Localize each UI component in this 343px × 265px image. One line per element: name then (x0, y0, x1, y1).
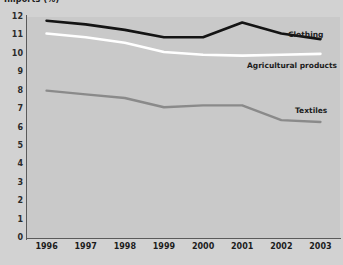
x-axis-tick-2002: 2002 (270, 243, 292, 251)
x-axis-tick-labels: 19961997199819992000200120022003 (0, 243, 343, 261)
x-axis-tick-1999: 1999 (153, 243, 175, 251)
x-axis-tick-1997: 1997 (75, 243, 97, 251)
series-line-textiles (47, 91, 321, 122)
series-label-textiles: Textiles (295, 107, 327, 115)
series-lines (0, 0, 343, 265)
x-axis-tick-1996: 1996 (35, 243, 57, 251)
x-axis-tick-2003: 2003 (309, 243, 331, 251)
series-label-agricultural-products: Agricultural products (247, 62, 337, 70)
series-label-clothing: Clothing (288, 31, 323, 39)
x-axis-tick-2000: 2000 (192, 243, 214, 251)
x-axis-tick-2001: 2001 (231, 243, 253, 251)
chart-container: Imports (%) 1211109876543210 Clothing Ag… (0, 0, 343, 265)
x-axis-tick-1998: 1998 (114, 243, 136, 251)
